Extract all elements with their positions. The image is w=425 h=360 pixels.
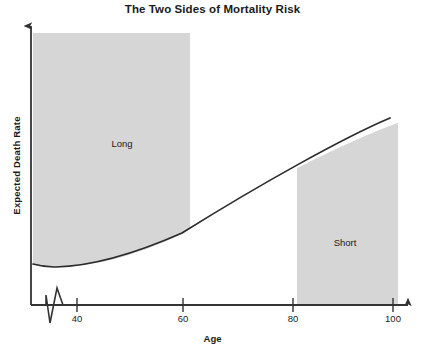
x-tick-label-100: 100 bbox=[373, 313, 413, 324]
y-axis-label: Expected Death Rate bbox=[11, 96, 22, 236]
region-long-shading bbox=[33, 33, 190, 283]
region-label-long: Long bbox=[87, 138, 157, 149]
region-short-shading bbox=[297, 120, 398, 306]
region-label-short: Short bbox=[310, 237, 380, 248]
chart-plot-area bbox=[0, 0, 425, 360]
chart-figure: The Two Sides of Mortality Risk Expected… bbox=[0, 0, 425, 360]
x-tick-label-40: 40 bbox=[57, 313, 97, 324]
x-tick-label-80: 80 bbox=[273, 313, 313, 324]
x-tick-label-60: 60 bbox=[163, 313, 203, 324]
x-axis-label: Age bbox=[150, 333, 275, 344]
chart-title: The Two Sides of Mortality Risk bbox=[0, 3, 425, 15]
